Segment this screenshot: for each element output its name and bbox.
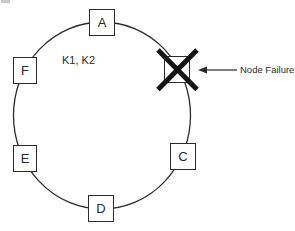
node-c-label: C: [178, 149, 187, 164]
node-f: F: [13, 57, 37, 84]
scan-artifact-mark: [1, 0, 10, 3]
node-c: C: [170, 143, 196, 170]
node-d: D: [88, 195, 114, 222]
ring-keys-label: K1, K2: [62, 54, 95, 66]
ring-topology-diagram: A C D E F K1, K2 Node Failure: [0, 0, 295, 231]
ring-ellipse-layer: [0, 0, 295, 231]
node-e-label: E: [21, 151, 30, 166]
node-e: E: [13, 145, 37, 172]
ring-ellipse: [14, 22, 191, 209]
arrow-left-icon: [198, 67, 237, 74]
node-failure-label: Node Failure: [240, 64, 294, 75]
node-a: A: [89, 9, 115, 36]
overlay-layer: [0, 0, 295, 231]
node-failed: [164, 56, 190, 83]
node-f-label: F: [21, 63, 29, 78]
node-d-label: D: [96, 201, 105, 216]
node-a-label: A: [98, 15, 107, 30]
